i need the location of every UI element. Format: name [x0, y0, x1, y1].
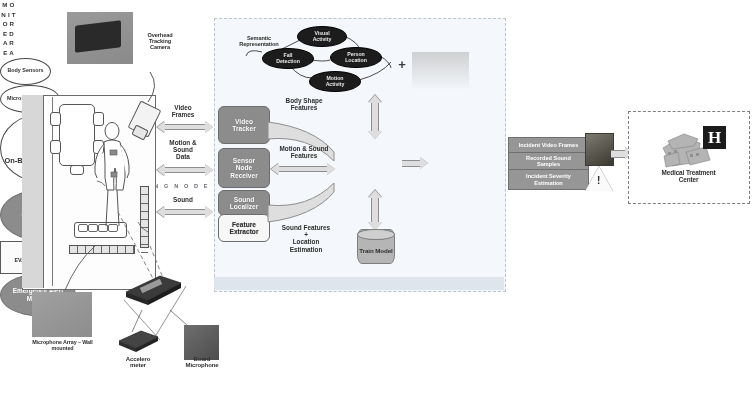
semantic-node-person-location[interactable]: Person Location — [330, 47, 382, 68]
chair-icon — [93, 112, 104, 126]
semantic-representation-label: Semantic Representation — [228, 35, 290, 47]
monitored-area-strip — [22, 95, 44, 288]
arrow-fusion-to-semantic — [368, 95, 382, 139]
medical-treatment-center-label: Medical Treatment Center — [642, 170, 735, 184]
semantic-node-visual-activity[interactable]: Visual Activity — [297, 26, 347, 47]
chair-icon — [93, 140, 104, 154]
incident-snapshot-photo — [585, 133, 614, 166]
flow-label-video-frames: Video Frames — [159, 104, 207, 118]
accelerometer-label: Accelero meter — [108, 356, 168, 369]
arrow-sound — [157, 206, 213, 218]
module-sound-localizer[interactable]: Sound Localizer — [218, 190, 270, 216]
flow-label-motion-sound-features: Motion & Sound Features — [266, 145, 342, 159]
microphone-array-photo-label: Microphone Array – Wall mounted — [10, 340, 115, 352]
table-icon — [59, 104, 95, 166]
output-incident-severity-estimation[interactable]: Incident Severity Estimation — [508, 169, 589, 190]
warning-exclamation-glyph: ! — [597, 176, 600, 186]
module-video-tracker[interactable]: Video Tracker — [218, 106, 270, 144]
rules-evaluation-tail — [412, 52, 469, 90]
microphone-array-wall-strip — [140, 186, 149, 248]
chair-icon — [50, 140, 61, 154]
arrow-motion-sound-data — [157, 164, 213, 176]
output-incident-video-frames[interactable]: Incident Video Frames — [508, 137, 589, 153]
flow-label-sound: Sound — [159, 196, 207, 203]
train-model-label: Train Model — [352, 248, 400, 255]
monitoring-node-footer — [214, 277, 504, 290]
chair-icon — [50, 112, 61, 126]
arrow-fusion-to-train-model — [368, 190, 382, 230]
overhead-camera-photo — [67, 12, 133, 64]
bench-icon — [74, 222, 127, 238]
microphone-array-photo — [32, 292, 92, 337]
medical-treatment-center-panel — [628, 111, 750, 204]
semantic-node-motion-activity[interactable]: Motion Activity — [309, 71, 361, 92]
body-sensors-callout: Body Sensors — [0, 58, 51, 85]
plus-operator: + — [396, 57, 408, 72]
overhead-camera-label: Overhead Tracking Camera — [136, 32, 184, 50]
arrow-motion-sound-features — [271, 163, 335, 175]
semantic-node-fall-detection[interactable]: Fall Detection — [262, 48, 314, 69]
module-feature-extractor[interactable]: Feature Extractor — [218, 214, 270, 242]
flow-label-sound-features-location: Sound Features + Location Estimation — [266, 224, 346, 253]
output-recorded-sound-samples[interactable]: Recorded Sound Samples — [508, 152, 589, 170]
hospital-h-icon: H — [703, 126, 726, 149]
arrow-to-emergency-alert — [402, 157, 428, 170]
monitored-area-label: M O N I T O R E D A R E A — [0, 0, 17, 58]
flow-label-motion-sound-data: Motion & Sound Data — [159, 139, 207, 161]
board-microphone-photo — [184, 325, 219, 360]
diagram-canvas: M O N I T O R E D A R E A — [0, 0, 754, 410]
arrow-video-frames — [157, 121, 213, 133]
flow-label-body-shape-features: Body Shape Features — [272, 97, 336, 111]
board-microphone-label: Board Microphone — [170, 356, 234, 369]
microphone-array-floor-strip — [69, 245, 135, 254]
chair-icon — [70, 165, 84, 175]
module-sensor-node-receiver[interactable]: Sensor Node Receiver — [218, 148, 270, 188]
